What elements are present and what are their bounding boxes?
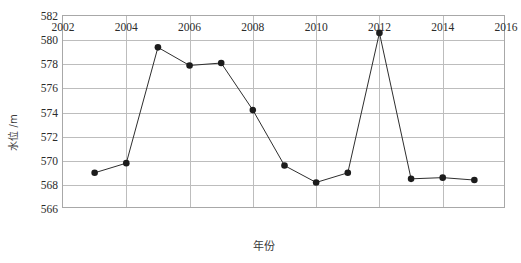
- y-tick-label: 566: [41, 203, 58, 215]
- chart-figure: 水位 /m 566568570572574576578580582 200220…: [0, 0, 521, 263]
- data-series-water-level: [63, 16, 506, 209]
- x-axis-title: 年份: [0, 237, 521, 253]
- y-tick-label: 572: [41, 131, 58, 143]
- data-point: [250, 107, 257, 114]
- y-tick-label: 576: [41, 82, 58, 94]
- data-point: [123, 160, 130, 167]
- y-tick-label: 574: [41, 107, 58, 119]
- data-point: [186, 62, 193, 69]
- y-tick-label: 570: [41, 155, 58, 167]
- y-axis-title: 水位 /m: [0, 72, 24, 192]
- data-point: [408, 176, 415, 183]
- data-point: [471, 177, 478, 184]
- data-point: [155, 44, 162, 51]
- series-line: [95, 33, 475, 183]
- data-point: [218, 60, 225, 67]
- data-point: [313, 179, 320, 186]
- y-tick-label: 568: [41, 179, 58, 191]
- y-axis-title-text: 水位 /m: [5, 114, 20, 150]
- plot-area: 566568570572574576578580582 200220042006…: [62, 15, 505, 208]
- data-point: [344, 170, 351, 177]
- data-point: [439, 174, 446, 181]
- data-point: [376, 30, 383, 37]
- x-axis-title-text: 年份: [253, 240, 275, 253]
- y-tick-label: 580: [41, 34, 58, 46]
- data-point: [281, 162, 288, 169]
- data-point: [91, 170, 98, 177]
- y-tick-label: 578: [41, 58, 58, 70]
